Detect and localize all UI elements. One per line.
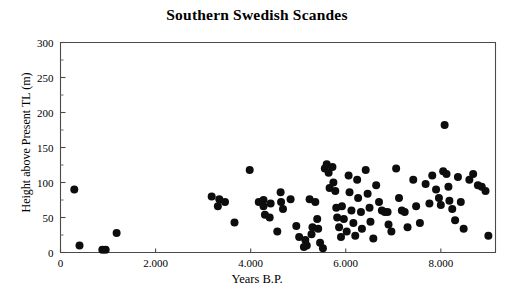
data-point [443,170,451,178]
data-point [308,230,316,238]
data-point [358,225,366,233]
data-point [357,208,365,216]
chart-figure: Southern Swedish Scandes Height above Pr… [0,0,514,299]
y-tick-label: 300 [37,37,54,49]
data-point [331,187,339,195]
axis-layer: 02.0004.0006.0008.000050100150200250300 [37,37,496,269]
data-point [214,202,222,210]
data-point [375,198,383,206]
data-point [277,188,285,196]
data-point [313,215,321,223]
data-point [113,229,121,237]
x-tick-label: 4.000 [238,257,263,269]
data-point [392,165,400,173]
data-point [333,214,341,222]
data-point [428,172,436,180]
scatter-plot-area: 02.0004.0006.0008.000050100150200250300 [0,0,514,299]
data-point [267,200,275,208]
data-point [441,121,449,129]
data-point [221,198,229,206]
data-point [404,223,412,231]
data-point [277,198,285,206]
data-point [364,190,372,198]
data-point [208,193,216,201]
x-tick-label: 2.000 [143,257,168,269]
data-point [347,207,355,215]
data-point [435,194,443,202]
data-point [372,181,380,189]
y-tick-label: 250 [37,72,54,84]
y-tick-label: 50 [43,212,55,224]
data-point [395,194,403,202]
data-point [385,221,393,229]
data-point [444,183,452,191]
data-point [319,244,327,252]
data-point [314,225,322,233]
x-tick-label: 6.000 [333,257,358,269]
y-tick-label: 150 [37,142,54,154]
data-point [432,186,440,194]
data-point [437,201,445,209]
data-point [354,194,362,202]
data-point [366,204,374,212]
data-point [482,187,490,195]
data-point [231,218,239,226]
data-point [353,176,361,184]
data-point [301,236,309,244]
data-point [292,222,300,230]
data-point [328,163,336,171]
data-point [273,228,281,236]
data-point [384,208,392,216]
data-point [76,242,84,250]
data-points-layer [70,121,492,254]
data-point [425,200,433,208]
data-point [349,219,357,227]
data-point [335,223,343,231]
data-point [387,228,395,236]
data-point [454,173,462,181]
y-tick-label: 200 [37,107,54,119]
data-point [260,202,268,210]
x-tick-label: 8.000 [428,257,453,269]
data-point [102,246,110,254]
data-point [445,197,453,205]
data-point [246,166,254,174]
data-point [70,186,78,194]
data-point [460,225,468,233]
data-point [457,198,465,206]
data-point [345,172,353,180]
plot-frame [61,43,496,253]
data-point [401,208,409,216]
data-point [409,176,417,184]
data-point [337,233,345,241]
y-tick-label: 100 [37,177,54,189]
data-point [451,216,459,224]
data-point [448,205,456,213]
data-point [343,228,351,236]
data-point [329,179,337,187]
y-tick-label: 0 [48,247,54,259]
data-point [469,170,477,178]
data-point [351,232,359,240]
data-point [287,195,295,203]
data-point [362,166,370,174]
data-point [422,180,430,188]
data-point [340,215,348,223]
data-point [346,188,354,196]
data-point [311,198,319,206]
data-point [266,214,274,222]
data-point [416,219,424,227]
data-point [338,202,346,210]
x-tick-label: 0 [58,257,64,269]
data-point [366,218,374,226]
data-point [369,235,377,243]
data-point [279,205,287,213]
data-point [484,232,492,240]
data-point [412,202,420,210]
